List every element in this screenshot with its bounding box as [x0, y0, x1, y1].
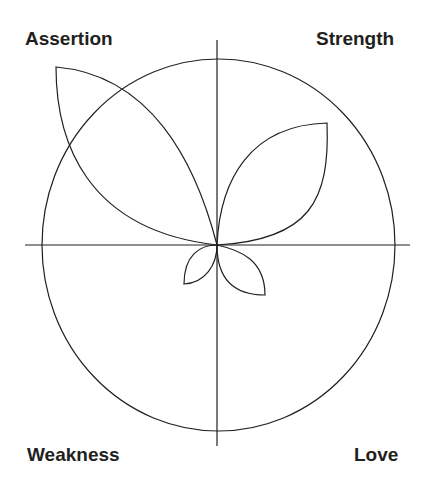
strength-petal	[217, 123, 327, 245]
assertion-petal	[56, 67, 217, 245]
butterfly-quadrant-diagram: Assertion Strength Weakness Love	[0, 0, 430, 481]
diagram-graphic	[0, 0, 430, 481]
love-petal	[217, 245, 265, 295]
label-love: Love	[354, 445, 398, 464]
label-weakness: Weakness	[27, 445, 120, 464]
weakness-petal	[184, 245, 217, 284]
label-assertion: Assertion	[25, 29, 113, 48]
label-strength: Strength	[316, 29, 394, 48]
